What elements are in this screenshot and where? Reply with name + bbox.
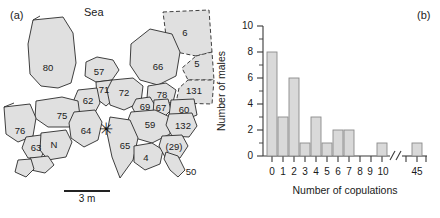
bar-45 (412, 143, 422, 156)
territory-label: 65 (120, 140, 131, 151)
territory-label: 64 (81, 125, 92, 136)
bar-0 (267, 52, 277, 156)
y-axis-title: Number of males (215, 51, 227, 131)
x-tick-label: 3 (302, 166, 308, 177)
territory-label: N (51, 139, 58, 150)
territory-shape-80 (28, 17, 76, 88)
x-tick-label: 8 (357, 166, 363, 177)
x-tick-label: 7 (346, 166, 352, 177)
x-tick-label: 45 (411, 166, 423, 177)
x-axis-ticks (272, 156, 426, 162)
x-tick-label: 4 (313, 166, 319, 177)
territory-label: 71 (99, 84, 110, 95)
x-tick-label: 10 (377, 166, 389, 177)
territory-label: 5 (194, 58, 199, 69)
scale-bar-label: 3 m (64, 193, 110, 204)
x-axis-break-marks (390, 151, 401, 160)
y-tick-label: 8 (247, 46, 253, 57)
x-tick-label: 5 (324, 166, 330, 177)
territory-label: 69 (140, 101, 151, 112)
panel-a-map: (a) Sea (0, 0, 218, 218)
nest-marker-asterisk: ✳ (99, 119, 113, 139)
bar-7 (344, 130, 354, 156)
histogram-svg: 0 2 4 6 8 10 Number of males (205, 0, 440, 218)
y-tick-label: 10 (242, 20, 254, 31)
territory-label: 78 (157, 89, 168, 100)
territory-label: 57 (94, 66, 105, 77)
scale-bar-line (64, 190, 110, 192)
territory-shape-66 (130, 29, 180, 85)
territory-label: 63 (31, 142, 42, 153)
territory-label: 62 (83, 95, 94, 106)
bar-5 (322, 143, 332, 156)
y-tick-label: 4 (247, 98, 253, 109)
x-tick-label: 2 (291, 166, 297, 177)
territory-label: 59 (145, 119, 156, 130)
x-tick-label: 6 (335, 166, 341, 177)
territory-label: 4 (143, 152, 148, 163)
panel-b-label: (b) (417, 9, 430, 21)
x-tick-label: 1 (280, 166, 286, 177)
x-tick-label: 0 (269, 166, 275, 177)
y-axis-ticks (257, 26, 263, 156)
x-tick-label: 9 (367, 166, 373, 177)
territory-label: 67 (156, 102, 167, 113)
x-axis-title: Number of copulations (292, 184, 397, 196)
territory-label: 50 (186, 166, 197, 177)
territory-label: 60 (179, 104, 190, 115)
bar-2 (289, 78, 299, 156)
territory-shape-lobe-2 (15, 159, 34, 177)
bar-3 (300, 143, 310, 156)
territory-label: 75 (57, 110, 68, 121)
bar-6 (333, 130, 343, 156)
bar-4 (311, 117, 321, 156)
panel-b-histogram: (b) 0 2 4 6 8 10 Number of males (205, 0, 440, 218)
territory-label: 76 (15, 125, 26, 136)
territory-label: (29) (166, 141, 183, 152)
territory-map: 80 57 71 62 72 66 6 5 78 131 69 67 60 75… (0, 0, 218, 190)
y-axis-tick-labels: 0 2 4 6 8 10 (242, 20, 254, 161)
territory-label: 72 (119, 87, 130, 98)
y-tick-label: 0 (247, 150, 253, 161)
territory-label: 6 (182, 27, 187, 38)
territory-label: 66 (153, 61, 164, 72)
territory-label: 131 (186, 85, 202, 96)
bar-10 (377, 143, 387, 156)
y-tick-label: 6 (247, 72, 253, 83)
scale-bar: 3 m (64, 190, 110, 204)
bars (267, 52, 422, 156)
bar-1 (278, 117, 288, 156)
territory-label: 80 (43, 62, 54, 73)
y-tick-label: 2 (247, 124, 253, 135)
x-axis-tick-labels: 0 1 2 3 4 5 6 7 8 9 10 45 (269, 166, 423, 177)
territory-label: 132 (175, 120, 191, 131)
